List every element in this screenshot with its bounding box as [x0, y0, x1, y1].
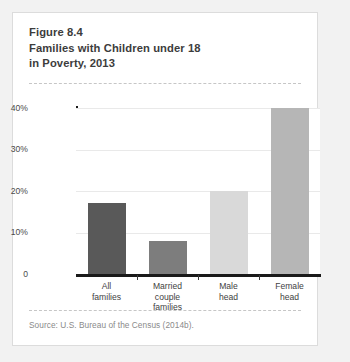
divider-top [29, 83, 301, 84]
bar [210, 191, 248, 274]
bar [149, 241, 187, 274]
category-label-line: head [259, 292, 321, 303]
source-note: Source: U.S. Bureau of the Census (2014b… [29, 320, 194, 330]
plot-area [76, 108, 320, 274]
y-tick-label-40%: 40% [0, 103, 28, 113]
x-tick [198, 275, 199, 280]
page-title-line-2: in Poverty, 2013 [29, 56, 299, 72]
figure-number: Figure 8.4 [29, 25, 299, 41]
y-tick-label-10%: 10% [0, 227, 28, 237]
category-label-line: families [76, 292, 138, 303]
bar [88, 203, 126, 274]
figure-card: Figure 8.4 Families with Children under … [12, 12, 318, 346]
category-label: Allfamilies [76, 281, 138, 302]
category-label-line: Male [198, 281, 260, 292]
x-tick [259, 275, 260, 280]
y-tick-label-20%: 20% [0, 186, 28, 196]
plot-background [76, 108, 320, 274]
category-label-line: couple [137, 292, 199, 303]
y-tick-label-0: 0 [0, 269, 28, 279]
category-label-line: Married [137, 281, 199, 292]
category-label: Marriedcouplefamilies [137, 281, 199, 313]
y-tick-label-30%: 30% [0, 144, 28, 154]
category-label-line: families [137, 302, 199, 313]
category-label-line: head [198, 292, 260, 303]
figure-title-block: Figure 8.4 Families with Children under … [29, 25, 299, 72]
category-label: Femalehead [259, 281, 321, 302]
divider-bottom [29, 310, 301, 311]
x-tick [137, 275, 138, 280]
category-label-line: Female [259, 281, 321, 292]
category-label: Malehead [198, 281, 260, 302]
category-label-line: All [76, 281, 138, 292]
bar [271, 108, 309, 274]
page-title-line-1: Families with Children under 18 [29, 41, 299, 57]
